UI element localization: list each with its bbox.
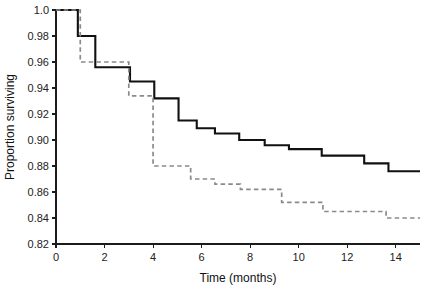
y-tick-marks xyxy=(52,10,56,244)
y-axis-group: 0.820.840.860.880.900.920.940.960.981.0 xyxy=(28,4,56,250)
x-tick-label: 12 xyxy=(341,251,353,263)
x-axis-group: 02468101214 xyxy=(53,244,420,263)
y-tick-labels: 0.820.840.860.880.900.920.940.960.981.0 xyxy=(28,4,49,250)
dashed-survival-curve xyxy=(56,10,420,218)
x-tick-label: 10 xyxy=(293,251,305,263)
y-tick-label: 1.0 xyxy=(34,4,49,16)
x-tick-labels: 02468101214 xyxy=(53,251,402,263)
series-group xyxy=(56,10,420,218)
x-axis-title: Time (months) xyxy=(200,271,277,285)
y-tick-label: 0.88 xyxy=(28,160,49,172)
y-tick-label: 0.82 xyxy=(28,238,49,250)
x-tick-label: 8 xyxy=(247,251,253,263)
y-tick-label: 0.86 xyxy=(28,186,49,198)
x-tick-marks xyxy=(56,244,396,248)
plot-canvas: 0.820.840.860.880.900.920.940.960.981.0 … xyxy=(0,0,428,288)
survival-curve-figure: 0.820.840.860.880.900.920.940.960.981.0 … xyxy=(0,0,428,288)
solid-survival-curve xyxy=(56,10,420,171)
y-axis-title: Proportion surviving xyxy=(3,74,17,180)
y-tick-label: 0.90 xyxy=(28,134,49,146)
y-tick-label: 0.94 xyxy=(28,82,49,94)
y-tick-label: 0.98 xyxy=(28,30,49,42)
x-tick-label: 2 xyxy=(101,251,107,263)
x-tick-label: 14 xyxy=(390,251,402,263)
y-tick-label: 0.92 xyxy=(28,108,49,120)
x-tick-label: 0 xyxy=(53,251,59,263)
x-tick-label: 6 xyxy=(199,251,205,263)
x-tick-label: 4 xyxy=(150,251,156,263)
y-tick-label: 0.84 xyxy=(28,212,49,224)
y-tick-label: 0.96 xyxy=(28,56,49,68)
